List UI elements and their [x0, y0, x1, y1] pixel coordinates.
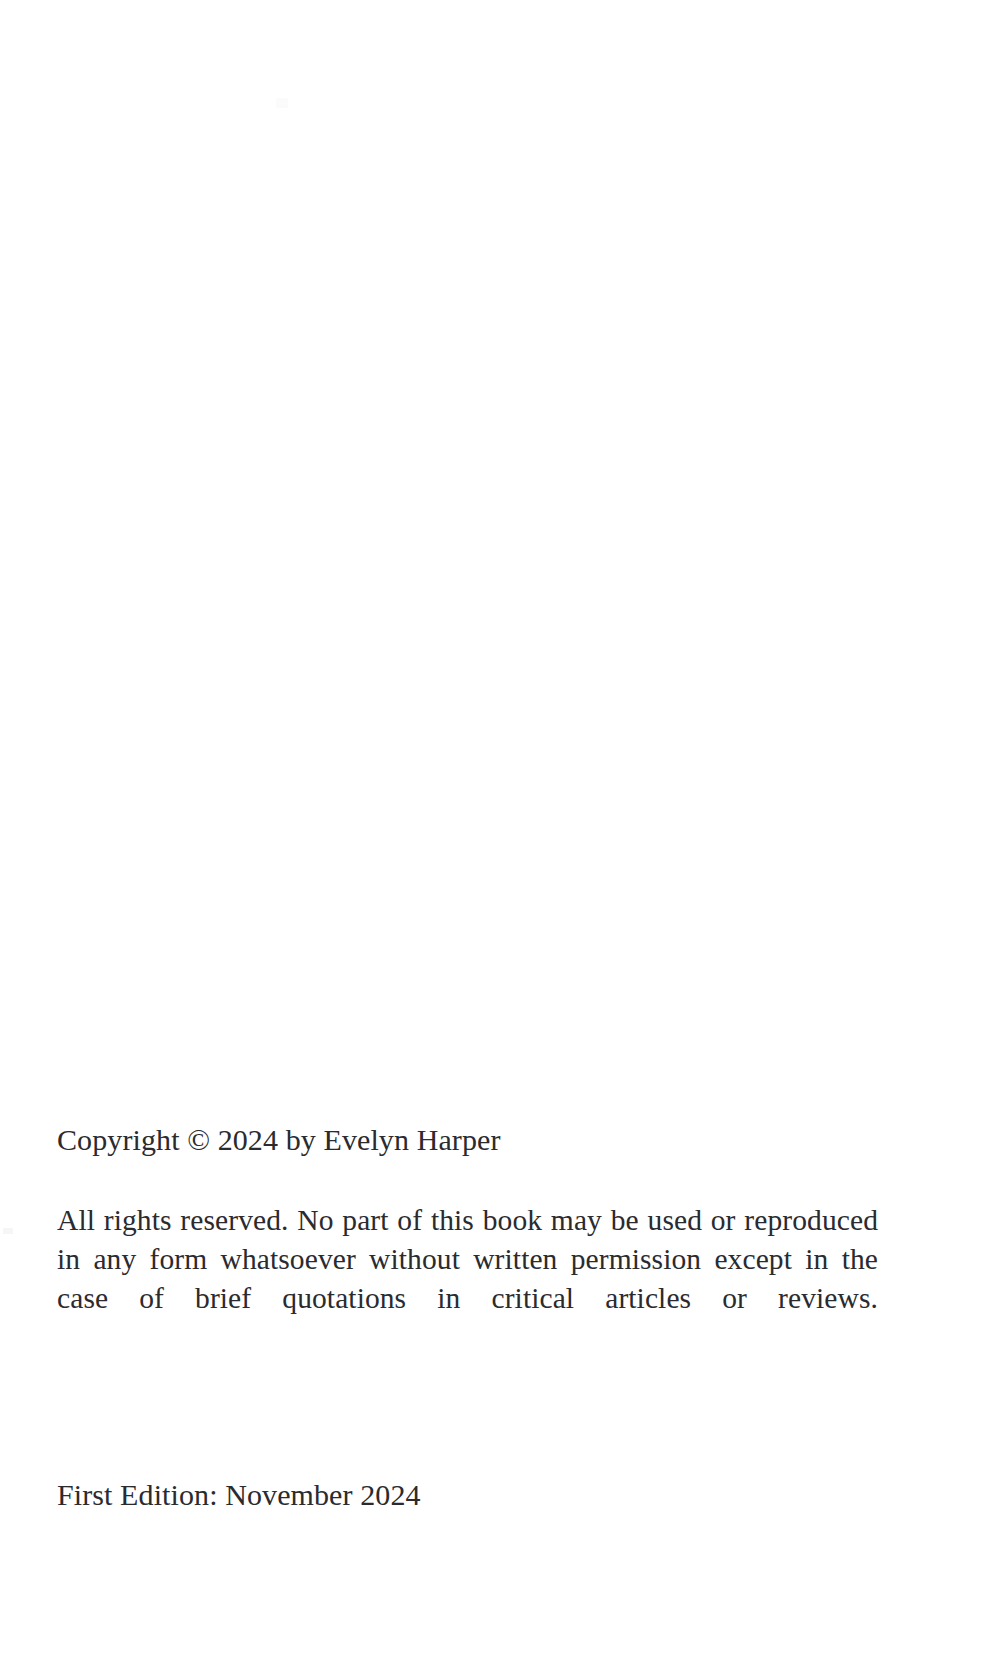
copyright-page: Copyright © 2024 by Evelyn Harper All ri…: [0, 0, 997, 1679]
copyright-text-block: Copyright © 2024 by Evelyn Harper All ri…: [57, 1120, 878, 1514]
scan-artifact-left-icon: [3, 1228, 13, 1234]
page-blank-top-area: [0, 0, 997, 1120]
copyright-notice: Copyright © 2024 by Evelyn Harper: [57, 1120, 878, 1159]
edition-statement: First Edition: November 2024: [57, 1475, 878, 1514]
all-rights-reserved-paragraph: All rights reserved. No part of this boo…: [57, 1201, 878, 1357]
